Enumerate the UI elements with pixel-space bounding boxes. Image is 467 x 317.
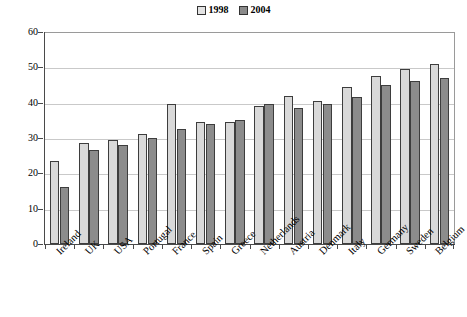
y-axis-tick-label: 20 bbox=[28, 168, 38, 178]
bar-denmark-2004 bbox=[323, 104, 333, 244]
bar-belgium-1998 bbox=[430, 64, 440, 244]
y-axis-tick-label: 40 bbox=[28, 98, 38, 108]
bar-uk-1998 bbox=[79, 143, 89, 244]
legend-entry-2004: 2004 bbox=[239, 5, 271, 15]
legend-label-1998: 1998 bbox=[209, 5, 229, 15]
y-axis-tick-mark bbox=[38, 103, 43, 104]
bar-uk-2004 bbox=[89, 150, 99, 244]
bar-usa-1998 bbox=[108, 140, 118, 244]
bar-usa-2004 bbox=[118, 145, 128, 244]
bar-germany-1998 bbox=[371, 76, 381, 244]
bar-italy-1998 bbox=[342, 87, 352, 244]
legend-label-2004: 2004 bbox=[251, 5, 271, 15]
bar-italy-2004 bbox=[352, 97, 362, 244]
bar-france-1998 bbox=[167, 104, 177, 244]
y-axis-tick-mark bbox=[38, 173, 43, 174]
bar-ireland-1998 bbox=[50, 161, 60, 244]
bar-portugal-1998 bbox=[138, 134, 148, 244]
y-axis: 0102030405060 bbox=[0, 32, 44, 245]
bar-greece-1998 bbox=[225, 122, 235, 244]
bar-netherlands-1998 bbox=[254, 106, 264, 244]
bar-portugal-2004 bbox=[148, 138, 158, 244]
bar-sweden-1998 bbox=[400, 69, 410, 244]
legend-swatch-icon-1998 bbox=[197, 6, 206, 15]
x-axis-labels: IrelandUKUSAPortugalFranceSpainGreeceNet… bbox=[0, 249, 467, 317]
chart-legend: 1998 2004 bbox=[0, 3, 467, 17]
y-axis-tick-mark bbox=[38, 138, 43, 139]
bar-france-2004 bbox=[177, 129, 187, 244]
bar-spain-2004 bbox=[206, 124, 216, 244]
bar-chart: 1998 2004 0102030405060 IrelandUKUSAPort… bbox=[0, 0, 467, 317]
legend-swatch-icon-2004 bbox=[239, 6, 248, 15]
y-axis-tick-mark bbox=[38, 32, 43, 33]
bar-belgium-2004 bbox=[440, 78, 450, 244]
y-axis-tick-label: 50 bbox=[28, 62, 38, 72]
y-axis-tick-mark bbox=[38, 67, 43, 68]
bar-netherlands-2004 bbox=[264, 104, 274, 244]
bars-layer bbox=[45, 32, 454, 244]
bar-spain-1998 bbox=[196, 122, 206, 244]
y-axis-tick-mark bbox=[38, 244, 43, 245]
bar-germany-2004 bbox=[381, 85, 391, 244]
legend-entry-1998: 1998 bbox=[197, 5, 229, 15]
y-axis-tick-label: 30 bbox=[28, 133, 38, 143]
y-axis-tick-label: 60 bbox=[28, 27, 38, 37]
y-axis-tick-mark bbox=[38, 209, 43, 210]
bar-sweden-2004 bbox=[410, 81, 420, 244]
y-axis-tick-label: 10 bbox=[28, 204, 38, 214]
bar-greece-2004 bbox=[235, 120, 245, 244]
bar-denmark-1998 bbox=[313, 101, 323, 244]
